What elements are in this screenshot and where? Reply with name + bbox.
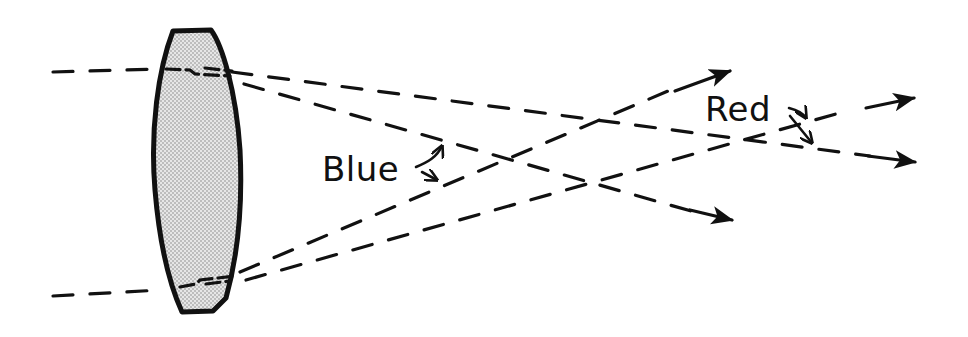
blue-ray-bottom-arrow [675, 71, 730, 91]
blue-label: Blue [322, 152, 399, 186]
blue-ray-top-arrow [690, 210, 732, 220]
blue-pointer-up-icon [416, 146, 442, 167]
incoming-ray-bottom [53, 290, 160, 296]
red-label: Red [705, 92, 771, 126]
blue-ray-bottom [240, 86, 680, 272]
incoming-rays [53, 69, 160, 296]
red-ray-bottom-arrow [866, 98, 914, 108]
lens [154, 30, 241, 312]
red-ray-top-arrow [868, 156, 915, 162]
blue-rays [240, 71, 732, 272]
blue-pointer-down-icon [422, 172, 437, 180]
incoming-ray-top [53, 69, 160, 72]
blue-pointer-arrows [416, 146, 442, 180]
blue-ray-top [244, 84, 705, 215]
red-ray-top [232, 72, 870, 156]
red-pointer-down-icon [790, 116, 812, 143]
chromatic-aberration-diagram [0, 0, 968, 337]
red-ray-bottom [246, 110, 850, 280]
